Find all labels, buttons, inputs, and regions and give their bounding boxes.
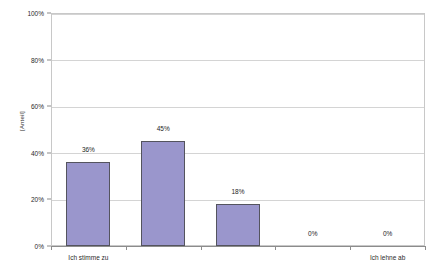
- x-axis-line: [51, 246, 425, 247]
- gridline: [52, 14, 424, 15]
- y-tick-label: 40%: [0, 149, 44, 156]
- y-tick-mark: [47, 59, 51, 60]
- y-tick-mark: [47, 13, 51, 14]
- x-axis-label-first: Ich stimme zu: [68, 254, 108, 261]
- gridline: [52, 200, 424, 201]
- plot-area: [51, 13, 425, 246]
- gridline: [52, 153, 424, 154]
- y-tick-mark: [47, 199, 51, 200]
- gridline: [52, 60, 424, 61]
- y-tick-label: 20%: [0, 196, 44, 203]
- x-tick-mark: [51, 246, 52, 250]
- gridline: [52, 107, 424, 108]
- x-tick-mark: [350, 246, 351, 250]
- x-tick-mark: [126, 246, 127, 250]
- x-axis-label-last: Ich lehne ab: [370, 254, 405, 261]
- x-tick-mark: [425, 246, 426, 250]
- x-tick-mark: [201, 246, 202, 250]
- y-tick-mark: [47, 152, 51, 153]
- y-tick-label: 60%: [0, 103, 44, 110]
- y-tick-label: 0%: [0, 243, 44, 250]
- y-tick-label: 100%: [0, 10, 44, 17]
- y-tick-label: 80%: [0, 56, 44, 63]
- y-axis-title: [Anteil]: [19, 91, 25, 151]
- bar-chart: [Anteil] 100% 80% 60% 40% 20% 0% 36% 45%…: [0, 0, 436, 277]
- x-tick-mark: [275, 246, 276, 250]
- y-tick-mark: [47, 106, 51, 107]
